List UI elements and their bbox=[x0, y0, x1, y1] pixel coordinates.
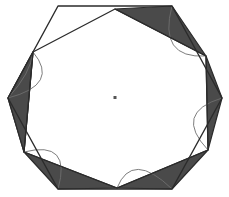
hexagon-overlay-figure bbox=[0, 0, 229, 197]
center-dot bbox=[114, 96, 117, 99]
figure-canvas bbox=[0, 0, 229, 197]
